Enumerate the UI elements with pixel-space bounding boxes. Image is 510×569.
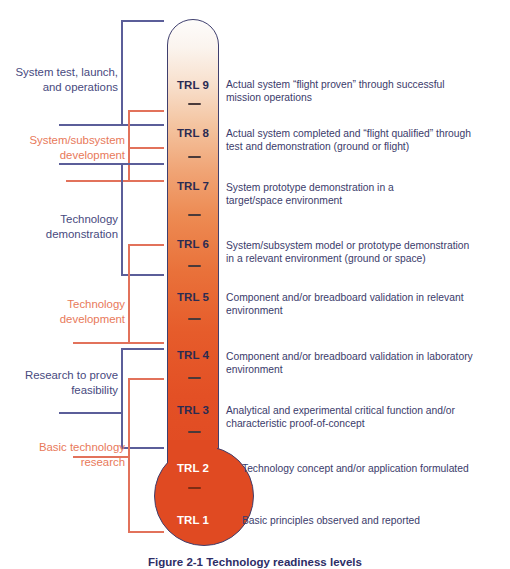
trl-label-9: TRL 9 <box>167 79 219 91</box>
trl-label-1: TRL 1 <box>167 514 219 526</box>
description-trl-7: System prototype demonstration in a targ… <box>226 181 506 207</box>
trl-label-4: TRL 4 <box>167 349 219 361</box>
stage-label-system-subsystem-development: System/subsystem development <box>0 133 125 163</box>
bracket-orange-2-bottom-arm <box>128 342 164 344</box>
bracket-blue-1-label-arm <box>59 124 122 126</box>
bracket-orange-3-bottom-arm <box>128 531 164 533</box>
trl-label-7: TRL 7 <box>167 180 219 192</box>
description-trl-5: Component and/or breadboard validation i… <box>226 291 506 317</box>
bracket-orange-2-top-arm <box>128 244 164 246</box>
description-trl-4: Component and/or breadboard validation i… <box>226 350 510 376</box>
bracket-blue-1-top-arm <box>121 20 164 22</box>
bracket-orange-1-bottom-arm <box>128 180 164 182</box>
description-trl-6: System/subsystem model or prototype demo… <box>226 239 510 265</box>
tick-mark-7 <box>188 214 201 216</box>
tick-mark-6 <box>188 265 201 267</box>
bracket-blue-3-top-arm <box>121 348 164 350</box>
bracket-blue-1-spine <box>121 20 123 125</box>
tick-mark-3 <box>188 431 201 433</box>
trl-label-6: TRL 6 <box>167 238 219 250</box>
tick-mark-8 <box>188 156 201 158</box>
bracket-orange-1-extra-arm <box>128 147 164 149</box>
bracket-orange-3-spine <box>128 378 130 532</box>
bracket-orange-1-top-arm <box>128 110 164 112</box>
description-trl-8: Actual system completed and “flight qual… <box>226 127 506 153</box>
stage-label-research-to-prove-feasibility: Research to prove feasibility <box>0 368 118 398</box>
bracket-orange-2-spine <box>128 244 130 343</box>
bracket-blue-3-spine <box>121 348 123 448</box>
stage-label-technology-development: Technology development <box>0 297 125 327</box>
bracket-orange-1-spine <box>128 110 130 182</box>
tick-mark-2 <box>188 487 201 489</box>
bracket-blue-3-label-arm <box>59 412 122 414</box>
bracket-orange-2-label-arm <box>73 342 128 344</box>
description-trl-3: Analytical and experimental critical fun… <box>226 404 510 430</box>
figure-caption: Figure 2-1 Technology readiness levels <box>0 556 510 568</box>
bracket-blue-2-top-arm <box>121 163 164 165</box>
stage-label-system-test-launch-operations: System test, launch, and operations <box>0 65 118 95</box>
stage-label-basic-technology-research: Basic technology research <box>0 440 125 470</box>
bracket-orange-1-label-arm <box>66 180 128 182</box>
bracket-blue-2-label-arm <box>59 163 122 165</box>
bracket-blue-2-spine <box>121 163 123 275</box>
bracket-orange-3-top-arm <box>128 378 164 380</box>
description-trl-9: Actual system “flight proven” through su… <box>226 78 506 104</box>
tick-mark-4 <box>188 377 201 379</box>
description-trl-1: Basic principles observed and reported <box>242 514 510 527</box>
trl-thermometer-figure: TRL 9 TRL 8 TRL 7 TRL 6 TRL 5 TRL 4 TRL … <box>0 0 510 569</box>
tick-mark-9 <box>188 103 201 105</box>
stage-label-technology-demonstration: Technology demonstration <box>0 212 118 242</box>
trl-label-8: TRL 8 <box>167 127 219 139</box>
trl-label-3: TRL 3 <box>167 404 219 416</box>
trl-label-2: TRL 2 <box>167 462 219 474</box>
description-trl-2: Technology concept and/or application fo… <box>242 462 510 475</box>
trl-label-5: TRL 5 <box>167 291 219 303</box>
tick-mark-5 <box>188 318 201 320</box>
